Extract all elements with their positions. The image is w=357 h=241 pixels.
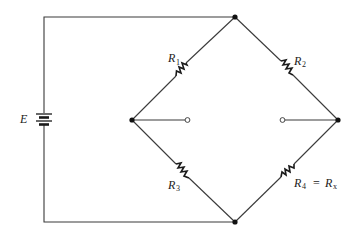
- r3-label: R 3: [167, 178, 180, 193]
- r2-resistor-icon: [281, 60, 293, 75]
- svg-text:1: 1: [176, 58, 180, 67]
- right-open-terminal: [280, 118, 285, 123]
- source-label: E: [19, 112, 28, 126]
- svg-text:R: R: [293, 54, 302, 68]
- r2-wire-upper: [235, 17, 281, 61]
- svg-text:2: 2: [302, 60, 306, 69]
- left-open-terminal: [185, 118, 190, 123]
- r4-wire-lower: [235, 177, 281, 222]
- top-node: [232, 14, 237, 19]
- svg-text:x: x: [333, 182, 337, 191]
- r2-label: R 2: [293, 54, 306, 69]
- top-wire: [44, 17, 235, 113]
- svg-text:R: R: [293, 176, 302, 190]
- r4-wire-upper: [294, 120, 338, 164]
- svg-text:R: R: [167, 178, 176, 192]
- r3-resistor-icon: [176, 163, 189, 178]
- svg-text:=: =: [313, 176, 320, 190]
- r1-wire-upper: [186, 17, 235, 63]
- right-node: [335, 117, 340, 122]
- bottom-node: [232, 219, 237, 224]
- battery-icon: [36, 114, 52, 125]
- r1-wire-lower: [132, 76, 176, 120]
- bottom-wire: [44, 125, 235, 222]
- svg-text:3: 3: [176, 184, 180, 193]
- r3-wire-lower: [189, 178, 235, 222]
- wheatstone-bridge-diagram: E R 1 R 2 R 3 R 4 = R x: [0, 0, 357, 241]
- r4-resistor-icon: [281, 164, 294, 177]
- left-node: [129, 117, 134, 122]
- r2-wire-lower: [293, 75, 338, 120]
- svg-text:R: R: [324, 176, 333, 190]
- r4-label: R 4 = R x: [293, 176, 337, 191]
- r3-wire-upper: [132, 120, 176, 164]
- svg-text:4: 4: [302, 182, 306, 191]
- r1-label: R 1: [167, 51, 180, 67]
- svg-text:R: R: [167, 51, 176, 65]
